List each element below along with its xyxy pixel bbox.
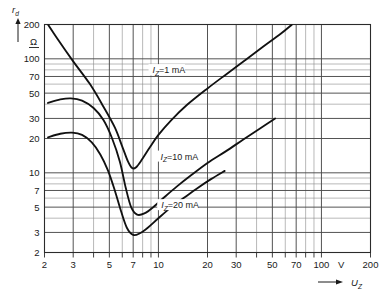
x-tick-label: 70 bbox=[291, 259, 302, 270]
chart-figure: 23571020305070100200 2357102030507010020… bbox=[0, 0, 385, 297]
y-tick-label: 30 bbox=[29, 113, 40, 124]
x-tick-label: 100 bbox=[314, 259, 330, 270]
y-axis-unit: Ω bbox=[30, 36, 37, 47]
y-tick-label: 20 bbox=[29, 133, 40, 144]
x-tick-label: 30 bbox=[231, 259, 242, 270]
x-tick-marks bbox=[45, 253, 371, 258]
x-tick-label: 3 bbox=[71, 259, 76, 270]
y-tick-label: 5 bbox=[34, 202, 39, 213]
y-tick-label: 200 bbox=[24, 19, 40, 30]
x-tick-label: 200 bbox=[363, 259, 379, 270]
y-tick-label: 3 bbox=[34, 227, 39, 238]
x-tick-label: 50 bbox=[267, 259, 278, 270]
y-tick-label: 10 bbox=[29, 167, 40, 178]
zener-dynamic-resistance-chart: 23571020305070100200 2357102030507010020… bbox=[0, 0, 385, 297]
x-tick-label: 5 bbox=[107, 259, 112, 270]
x-tick-label: 7 bbox=[131, 259, 136, 270]
x-tick-label: 2 bbox=[42, 259, 47, 270]
y-tick-label: 70 bbox=[29, 71, 40, 82]
curve-annotation-2: IZ=20 mA bbox=[161, 200, 199, 212]
y-tick-label: 2 bbox=[34, 247, 39, 258]
x-tick-label: 20 bbox=[202, 259, 213, 270]
x-tick-label: 10 bbox=[153, 259, 164, 270]
y-tick-label: 50 bbox=[29, 88, 40, 99]
x-axis-unit: V bbox=[338, 259, 345, 270]
y-tick-label: 100 bbox=[24, 53, 40, 64]
curve-annotation-1: IZ=10 mA bbox=[161, 152, 199, 164]
y-tick-label: 7 bbox=[34, 185, 39, 196]
